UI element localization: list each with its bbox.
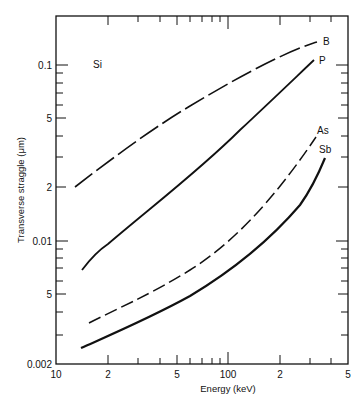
y-tick-labels: 0.1 5 2 0.01 5 0.002 — [27, 60, 52, 370]
chart: 10 2 5 100 2 5 0.1 5 2 0.01 5 0.002 Ener… — [0, 0, 364, 402]
y-tick-label: 0.002 — [27, 359, 52, 370]
y-axis-ticks-left — [56, 65, 68, 335]
y-tick-label: 0.01 — [33, 236, 53, 247]
y-tick-label: 0.1 — [38, 60, 52, 71]
curve-b — [75, 42, 317, 187]
y-tick-label: 5 — [46, 289, 52, 300]
series-label-b: B — [323, 36, 330, 47]
x-tick-label: 5 — [174, 369, 180, 380]
x-tick-label: 5 — [345, 369, 351, 380]
y-tick-label: 5 — [46, 113, 52, 124]
y-tick-label: 2 — [46, 182, 52, 193]
x-tick-label: 10 — [50, 369, 62, 380]
y-axis-title: Transverse straggle (μm) — [15, 137, 26, 243]
series-label-sb: Sb — [319, 144, 332, 155]
x-tick-label: 2 — [105, 369, 111, 380]
x-axis-title: Energy (keV) — [200, 383, 255, 394]
x-axis-ticks-top — [108, 16, 331, 29]
y-axis-ticks-right — [336, 65, 348, 335]
x-tick-labels: 10 2 5 100 2 5 — [50, 369, 351, 380]
curve-p — [82, 60, 314, 270]
curve-sb — [81, 158, 325, 348]
series-label-p: P — [319, 55, 326, 66]
x-tick-label: 100 — [220, 369, 237, 380]
x-axis-ticks-bottom — [108, 352, 331, 364]
material-label: Si — [93, 59, 102, 70]
x-tick-label: 2 — [277, 369, 283, 380]
series-label-as: As — [317, 125, 329, 136]
